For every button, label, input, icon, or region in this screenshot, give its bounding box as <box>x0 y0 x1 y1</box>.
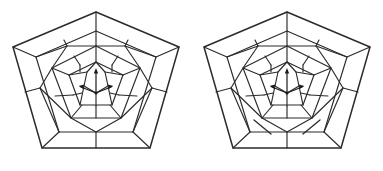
schlegel-diagram-left <box>0 0 192 171</box>
schlegel-diagram-right <box>191 0 383 171</box>
center-dot-icon <box>285 91 288 94</box>
right-diagram-canvas <box>191 0 383 171</box>
left-diagram-canvas <box>0 0 192 171</box>
center-dot-icon <box>94 91 97 94</box>
figure-board <box>0 0 383 171</box>
